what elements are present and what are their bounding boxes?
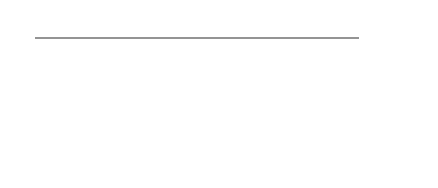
resistor-network-schematic: [0, 0, 438, 188]
